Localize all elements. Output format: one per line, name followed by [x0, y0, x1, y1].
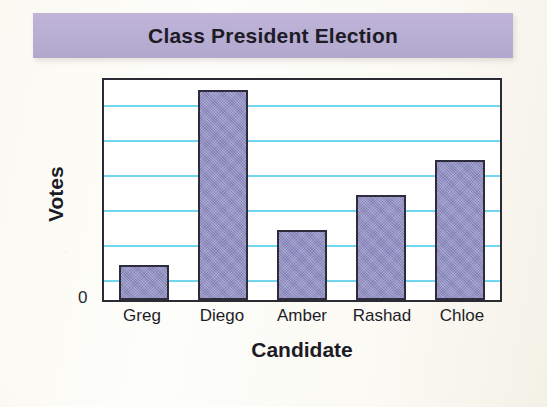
- y-axis-tick-zero: 0: [78, 288, 87, 308]
- bar-slot-rashad: [342, 80, 421, 300]
- x-axis-title: Candidate: [102, 338, 502, 362]
- bar-slot-diego: [183, 80, 262, 300]
- bar-chloe[interactable]: [435, 160, 485, 300]
- bar-greg[interactable]: [119, 265, 169, 300]
- x-tick-rashad: Rashad: [342, 306, 422, 326]
- y-axis-title: Votes: [44, 178, 68, 222]
- bar-slot-chloe: [421, 80, 500, 300]
- bar-slot-greg: [104, 80, 183, 300]
- x-axis-tick-labels: Greg Diego Amber Rashad Chloe: [102, 306, 502, 326]
- plot-area: [102, 78, 502, 302]
- bar-diego[interactable]: [198, 90, 248, 300]
- bar-rashad[interactable]: [356, 195, 406, 300]
- x-tick-diego: Diego: [182, 306, 262, 326]
- x-tick-chloe: Chloe: [422, 306, 502, 326]
- bars-layer: [104, 80, 500, 300]
- bar-chart-figure: Votes 0 Greg Diego Amber Rashad Chloe Ca…: [0, 0, 547, 407]
- x-tick-greg: Greg: [102, 306, 182, 326]
- x-tick-amber: Amber: [262, 306, 342, 326]
- bar-amber[interactable]: [277, 230, 327, 300]
- bar-slot-amber: [262, 80, 341, 300]
